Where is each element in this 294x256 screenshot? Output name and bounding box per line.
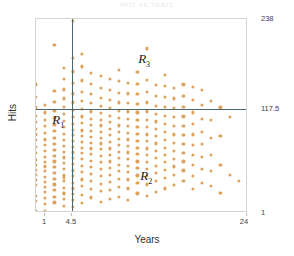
data-point [44,118,47,121]
data-point [228,173,231,176]
data-point [35,83,38,86]
data-point [108,89,111,92]
data-point [62,186,65,189]
data-point [35,95,38,98]
data-point [117,170,120,173]
data-point [117,116,120,119]
data-point [210,118,213,121]
data-point [80,115,83,118]
data-point [99,142,102,145]
data-point [99,182,102,185]
x-tick-mark-1 [71,213,72,216]
data-point [44,111,47,114]
data-point [44,103,47,106]
data-point [117,143,120,146]
data-point [62,150,65,153]
data-point [53,143,56,146]
data-point [182,94,185,97]
data-point [191,163,194,166]
data-point [173,165,176,168]
data-point [237,179,240,182]
data-point [62,161,65,164]
data-point [163,161,166,164]
data-point [219,134,222,137]
data-point [90,141,93,144]
data-point [182,179,185,182]
region-letter: R [52,112,60,127]
data-point [99,167,102,170]
data-point [154,190,157,193]
data-point [200,130,203,133]
data-point [44,180,47,183]
data-point [136,146,139,149]
data-point [191,85,194,88]
data-point [163,105,166,108]
data-point [191,143,194,146]
data-point [80,184,83,187]
data-point [173,173,176,176]
data-point [35,168,38,171]
data-point [53,154,56,157]
data-point [99,175,102,178]
data-point [154,104,157,107]
data-point [90,102,93,105]
data-point [80,202,83,205]
data-point [191,98,194,101]
data-point [154,157,157,160]
data-point [80,134,83,137]
data-point [127,170,130,173]
data-point [136,174,139,177]
data-point [62,105,65,108]
data-point [80,129,83,132]
data-point [210,184,213,187]
data-point [173,157,176,160]
data-point [154,94,157,97]
data-point [35,173,38,176]
data-point [44,138,47,141]
region-subscript: 2 [148,177,152,186]
data-point [154,84,157,87]
data-point [62,179,65,182]
data-point [99,154,102,157]
split-line-hits [36,109,246,110]
region-label-r3: R3 [138,51,150,69]
data-point [163,176,166,179]
data-point [145,101,148,104]
data-point [127,81,130,84]
data-point [80,170,83,173]
data-point [163,122,166,125]
data-point [136,125,139,128]
data-point [117,80,120,83]
data-point [62,132,65,135]
data-point [127,178,130,181]
data-point [163,139,166,142]
data-point [154,127,157,130]
data-point [117,130,120,133]
data-point [163,114,166,117]
data-point [99,75,102,78]
x-tick-mark-0 [44,213,45,216]
data-point [117,177,120,180]
data-point [145,125,148,128]
data-point [80,65,83,68]
region-letter: R [138,51,146,66]
data-point [154,120,157,123]
data-point [80,146,83,149]
data-point [80,99,83,102]
data-point [90,93,93,96]
data-point [228,116,231,119]
data-point [246,166,247,169]
data-point [127,187,130,190]
data-point [191,153,194,156]
data-point [127,151,130,154]
data-point [200,181,203,184]
data-point [145,118,148,121]
region-subscript: 1 [60,121,64,130]
data-point [35,114,38,117]
data-point [90,188,93,191]
data-point [117,137,120,140]
data-point [145,78,148,81]
data-point [154,112,157,115]
data-point [127,164,130,167]
data-point [99,96,102,99]
